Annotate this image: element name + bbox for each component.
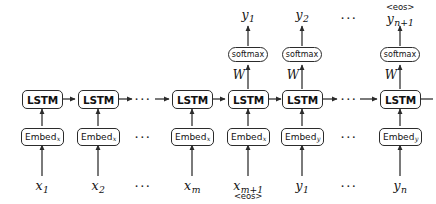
embed-box-4[interactable]: Embedx bbox=[227, 128, 270, 146]
embed-box-label: Embed bbox=[175, 132, 206, 142]
input-eos-marker: <eos> bbox=[234, 191, 262, 201]
output-token-yn1: yn+1 bbox=[387, 11, 414, 26]
lstm-cell-label: LSTM bbox=[27, 94, 58, 106]
output-token-symbol: y bbox=[296, 7, 303, 22]
softmax-box-2[interactable]: softmax bbox=[282, 47, 322, 62]
output-token-y1: y1 bbox=[242, 7, 255, 22]
output-token-y2: y2 bbox=[296, 7, 309, 22]
embed-box-subscript: y bbox=[415, 135, 419, 143]
input-token-symbol: x bbox=[92, 178, 99, 193]
embed-box-1[interactable]: Embedx bbox=[21, 128, 64, 146]
embed-box-label: Embed bbox=[81, 132, 112, 142]
embed-row-ellipsis-right: ··· bbox=[340, 130, 357, 145]
input-token-index: 1 bbox=[303, 184, 309, 195]
lstm-cell-label: LSTM bbox=[287, 94, 318, 106]
input-token-index: n bbox=[401, 184, 407, 195]
seq2seq-diagram: LSTM LSTM LSTM LSTM LSTM LSTM ··· ··· Em… bbox=[0, 0, 436, 204]
input-token-x1: x1 bbox=[36, 178, 49, 193]
input-token-index: m bbox=[192, 184, 201, 195]
lstm-cell-1[interactable]: LSTM bbox=[22, 90, 63, 109]
lstm-row-ellipsis-left: ··· bbox=[134, 92, 151, 107]
projection-weight-label-2: W bbox=[287, 68, 299, 82]
lstm-cell-5[interactable]: LSTM bbox=[282, 90, 323, 109]
lstm-cell-6[interactable]: LSTM bbox=[380, 90, 421, 109]
softmax-box-label: softmax bbox=[286, 50, 318, 59]
lstm-cell-4[interactable]: LSTM bbox=[228, 90, 269, 109]
lstm-row-ellipsis-right: ··· bbox=[340, 92, 357, 107]
softmax-box-label: softmax bbox=[384, 50, 416, 59]
embed-box-6[interactable]: Embedy bbox=[379, 128, 422, 146]
input-token-index: 2 bbox=[99, 184, 105, 195]
input-token-symbol: y bbox=[296, 178, 303, 193]
softmax-box-3[interactable]: softmax bbox=[380, 47, 420, 62]
input-row-ellipsis-right: ··· bbox=[340, 179, 357, 194]
embed-box-5[interactable]: Embedy bbox=[281, 128, 324, 146]
softmax-box-label: softmax bbox=[232, 50, 264, 59]
lstm-cell-label: LSTM bbox=[385, 94, 416, 106]
embed-box-2[interactable]: Embedx bbox=[77, 128, 120, 146]
embed-row-ellipsis-left: ··· bbox=[134, 130, 151, 145]
embed-box-label: Embed bbox=[383, 132, 414, 142]
input-token-symbol: y bbox=[393, 178, 400, 193]
embed-box-subscript: x bbox=[263, 135, 267, 143]
output-row-ellipsis: ··· bbox=[340, 11, 357, 26]
input-row-ellipsis-left: ··· bbox=[134, 179, 151, 194]
input-token-index: 1 bbox=[43, 184, 49, 195]
embed-box-3[interactable]: Embedx bbox=[171, 128, 214, 146]
input-token-y1: y1 bbox=[296, 178, 309, 193]
output-token-index: 1 bbox=[249, 13, 255, 24]
embed-box-subscript: x bbox=[207, 135, 211, 143]
projection-weight-label-1: W bbox=[233, 68, 245, 82]
input-token-yn: yn bbox=[393, 178, 406, 193]
softmax-box-1[interactable]: softmax bbox=[228, 47, 268, 62]
lstm-cell-3[interactable]: LSTM bbox=[172, 90, 213, 109]
embed-box-label: Embed bbox=[231, 132, 262, 142]
embed-box-subscript: y bbox=[317, 135, 321, 143]
input-token-xm: xm bbox=[184, 178, 200, 193]
output-token-index: n+1 bbox=[394, 17, 414, 28]
input-token-symbol: x bbox=[184, 178, 191, 193]
output-token-symbol: y bbox=[242, 7, 249, 22]
embed-box-label: Embed bbox=[285, 132, 316, 142]
embed-box-label: Embed bbox=[25, 132, 56, 142]
input-token-symbol: x bbox=[36, 178, 43, 193]
lstm-cell-2[interactable]: LSTM bbox=[78, 90, 119, 109]
output-token-symbol: y bbox=[387, 11, 394, 26]
embed-box-subscript: x bbox=[113, 135, 117, 143]
lstm-cell-label: LSTM bbox=[83, 94, 114, 106]
projection-weight-label-3: W bbox=[385, 68, 397, 82]
output-token-index: 2 bbox=[303, 13, 309, 24]
connector-layer bbox=[0, 0, 436, 204]
input-token-x2: x2 bbox=[92, 178, 105, 193]
lstm-cell-label: LSTM bbox=[177, 94, 208, 106]
embed-box-subscript: x bbox=[57, 135, 61, 143]
lstm-cell-label: LSTM bbox=[233, 94, 264, 106]
